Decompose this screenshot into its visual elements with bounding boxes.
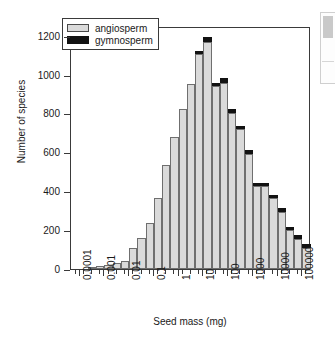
y-axis-tick-label: 600 (43, 148, 60, 158)
x-axis-tick-label: 10 (206, 269, 216, 280)
bar-segment-angiosperm (195, 54, 203, 269)
bar-segment-gymnosperm (195, 51, 203, 55)
histogram-bar (88, 26, 96, 269)
bar-segment-gymnosperm (245, 150, 253, 154)
histogram-bar (245, 26, 253, 269)
x-axis-tick (252, 270, 253, 276)
histogram-bar (261, 26, 269, 269)
bar-segment-gymnosperm (236, 126, 244, 130)
histogram-bar (220, 26, 228, 269)
x-axis-tick-label: 0.001 (107, 255, 117, 280)
x-axis-minor-tick (223, 270, 224, 274)
histogram-bar (96, 26, 104, 269)
x-axis-tick-label: 100000 (305, 247, 315, 280)
histogram-bar (195, 26, 203, 269)
bar-segment-angiosperm (162, 165, 170, 269)
bar-segment-angiosperm (220, 83, 228, 269)
bar-segment-angiosperm (236, 129, 244, 269)
histogram-bar (187, 26, 195, 269)
histogram-bar (137, 26, 145, 269)
histogram-bar (294, 26, 302, 269)
x-axis-tick (277, 270, 278, 276)
x-axis-tick-label: 100 (231, 263, 241, 280)
legend-item-gymnosperm: gymnosperm (67, 34, 153, 46)
x-axis-tick-label: 0.01 (132, 261, 142, 280)
x-axis-minor-tick (75, 270, 76, 274)
chart-legend: angiosperm gymnosperm (62, 18, 159, 50)
y-axis-tick-label: 1000 (38, 71, 60, 81)
y-axis-tick-label: 1200 (38, 32, 60, 42)
y-axis-tick-label: 400 (43, 187, 60, 197)
x-axis-tick (128, 270, 129, 276)
bar-segment-angiosperm (253, 186, 261, 269)
bar-segment-angiosperm (245, 154, 253, 269)
legend-label-gymnosperm: gymnosperm (95, 35, 153, 46)
bar-segment-angiosperm (96, 266, 104, 269)
x-axis-title: Seed mass (mg) (70, 316, 310, 327)
x-axis-tick-label: 10000 (281, 252, 291, 280)
y-axis-tick (64, 114, 70, 115)
bar-segment-angiosperm (203, 42, 211, 269)
angiosperm-swatch-icon (67, 24, 89, 32)
legend-label-angiosperm: angiosperm (95, 23, 147, 34)
bar-segment-angiosperm (294, 239, 302, 269)
x-axis-tick (153, 270, 154, 276)
histogram-bar (228, 26, 236, 269)
histogram-bar (146, 26, 154, 269)
y-axis-tick-label: 200 (43, 226, 60, 236)
x-axis-minor-tick (124, 270, 125, 274)
x-axis-minor-tick (272, 270, 273, 274)
bar-segment-gymnosperm (253, 183, 261, 187)
histogram-bar (286, 26, 294, 269)
bar-segment-gymnosperm (261, 183, 269, 187)
x-axis-tick (103, 270, 104, 276)
y-axis-tick (64, 37, 70, 38)
y-axis-tick (64, 231, 70, 232)
legend-item-angiosperm: angiosperm (67, 22, 153, 34)
histogram-bar (203, 26, 211, 269)
histogram-bar (104, 26, 112, 269)
histogram-bar (170, 26, 178, 269)
histogram-bar (179, 26, 187, 269)
x-axis-minor-tick (297, 270, 298, 274)
plot-area (70, 27, 310, 270)
x-axis-minor-tick (149, 270, 150, 274)
bar-segment-gymnosperm (294, 235, 302, 239)
y-axis-title: Number of species (16, 57, 27, 187)
x-axis-minor-tick (99, 270, 100, 274)
x-axis-tick-label: 0.0001 (83, 249, 93, 280)
y-axis-tick-label: 0 (54, 265, 60, 275)
bar-segment-angiosperm (228, 113, 236, 269)
bars-layer (71, 28, 309, 269)
y-axis-tick-label: 800 (43, 109, 60, 119)
histogram-bar (154, 26, 162, 269)
bar-segment-angiosperm (187, 84, 195, 269)
x-axis-minor-tick (173, 270, 174, 274)
histogram-bar (278, 26, 286, 269)
x-axis-tick (79, 270, 80, 276)
x-axis-minor-tick (198, 270, 199, 274)
histogram-bar (121, 26, 129, 269)
bar-segment-angiosperm (146, 223, 154, 269)
x-axis-tick-label: 1 (182, 274, 192, 280)
bar-segment-angiosperm (261, 186, 269, 269)
bar-segment-angiosperm (170, 137, 178, 269)
y-axis-tick (64, 270, 70, 271)
x-axis-tick-label: 0.1 (157, 266, 167, 280)
bar-segment-gymnosperm (212, 83, 220, 87)
y-axis-tick (64, 76, 70, 77)
bar-segment-gymnosperm (203, 37, 211, 42)
x-axis-tick (227, 270, 228, 276)
histogram-bar (236, 26, 244, 269)
histogram-bar (129, 26, 137, 269)
bar-segment-gymnosperm (278, 208, 286, 212)
bar-segment-angiosperm (269, 198, 277, 269)
bar-segment-angiosperm (121, 261, 129, 269)
bar-segment-angiosperm (154, 198, 162, 269)
x-axis-minor-tick (248, 270, 249, 274)
histogram-bar (113, 26, 121, 269)
histogram-bar (212, 26, 220, 269)
gymnosperm-swatch-icon (67, 36, 89, 44)
bar-segment-angiosperm (212, 86, 220, 269)
